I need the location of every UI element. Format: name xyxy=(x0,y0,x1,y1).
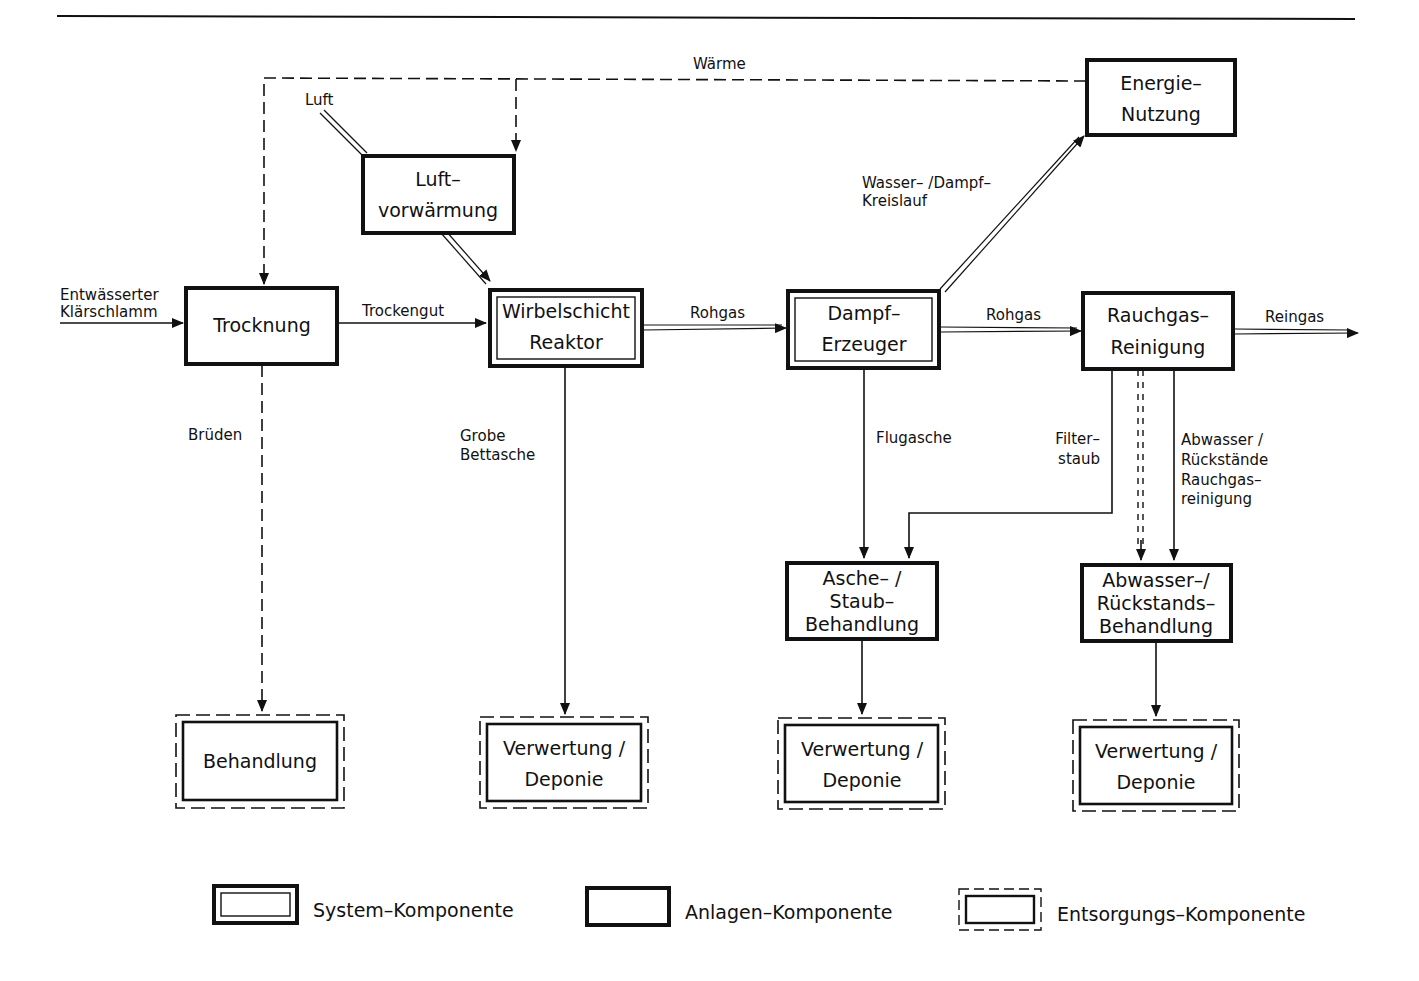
label-rohgas-2: Rohgas xyxy=(986,306,1041,324)
box-label: Staub– xyxy=(830,590,895,612)
box-label: Rauchgas– xyxy=(1107,304,1209,326)
label-reingas: Reingas xyxy=(1265,308,1324,326)
box-label: Behandlung xyxy=(203,750,317,772)
label-input-1: Entwässerter xyxy=(60,286,159,304)
top-rule xyxy=(57,16,1355,19)
legend-item-system: System–Komponente xyxy=(214,886,514,923)
legend-label: System–Komponente xyxy=(313,899,514,921)
label-abwasser-4: reinigung xyxy=(1181,490,1252,508)
label-abwasser-1: Abwasser / xyxy=(1181,431,1264,449)
label-bettasche-2: Bettasche xyxy=(460,446,535,464)
box-label: Trocknung xyxy=(212,314,310,336)
box-label: Nutzung xyxy=(1121,103,1201,125)
legend-label: Anlagen–Komponente xyxy=(685,901,893,923)
label-abwasser-3: Rauchgas– xyxy=(1181,471,1262,489)
box-energienutzung: Energie– Nutzung xyxy=(1087,60,1235,135)
label-trockengut: Trockengut xyxy=(361,302,444,320)
box-behandlung: Behandlung xyxy=(176,715,344,808)
box-label: Rückstands– xyxy=(1097,592,1215,614)
label-luft: Luft xyxy=(305,91,334,109)
box-label: Reaktor xyxy=(529,331,603,353)
box-abwasser-rueckstand: Abwasser–/ Rückstands– Behandlung xyxy=(1082,565,1231,641)
legend-item-entsorgung: Entsorgungs–Komponente xyxy=(959,889,1305,930)
box-label: Luft– xyxy=(415,168,461,190)
box-verwertung-3: Verwertung / Deponie xyxy=(1073,720,1239,811)
box-label: Verwertung / xyxy=(801,738,924,760)
process-flow-diagram: Luft– vorwärmung Trocknung Energie– Nutz… xyxy=(0,0,1419,981)
wasser-dampf-line xyxy=(940,137,1079,289)
box-label: Deponie xyxy=(524,768,603,790)
label-waerme: Wärme xyxy=(693,55,746,73)
box-label: Asche– / xyxy=(822,567,902,589)
box-label: Deponie xyxy=(1116,771,1195,793)
box-label: vorwärmung xyxy=(378,199,498,221)
box-label: Energie– xyxy=(1120,72,1202,94)
box-dampferzeuger: Dampf– Erzeuger xyxy=(788,291,939,368)
box-trocknung: Trocknung xyxy=(186,288,337,364)
box-asche-staub: Asche– / Staub– Behandlung xyxy=(787,563,937,639)
box-wirbelschicht-reaktor: Wirbelschicht Reaktor xyxy=(490,290,642,366)
label-filterstaub-2: staub xyxy=(1058,450,1100,468)
legend-label: Entsorgungs–Komponente xyxy=(1057,903,1305,925)
box-label: Verwertung / xyxy=(1095,740,1218,762)
label-wasser-dampf-1: Wasser– /Dampf– xyxy=(862,174,991,192)
legend-item-anlagen: Anlagen–Komponente xyxy=(587,888,893,925)
box-label: Deponie xyxy=(822,769,901,791)
label-brueden: Brüden xyxy=(188,426,242,444)
label-wasser-dampf-2: Kreislauf xyxy=(862,192,928,210)
box-label: Wirbelschicht xyxy=(502,300,630,322)
label-bettasche-1: Grobe xyxy=(460,427,505,445)
box-rauchgasreinigung: Rauchgas– Reinigung xyxy=(1083,293,1233,369)
box-luftvorwaermung: Luft– vorwärmung xyxy=(363,156,514,233)
label-input-2: Klärschlamm xyxy=(60,303,158,321)
luft-inlet-line xyxy=(320,113,363,156)
reingas-line xyxy=(1234,329,1350,330)
box-label: Behandlung xyxy=(1099,615,1213,637)
box-label: Erzeuger xyxy=(821,333,906,355)
legend: System–Komponente Anlagen–Komponente Ent… xyxy=(214,886,1305,930)
box-label: Reinigung xyxy=(1111,336,1206,358)
rohgas2-line xyxy=(940,327,1077,328)
label-rohgas-1: Rohgas xyxy=(690,304,745,322)
box-verwertung-1: Verwertung / Deponie xyxy=(480,717,648,808)
label-filterstaub-1: Filter– xyxy=(1055,430,1100,448)
box-label: Dampf– xyxy=(827,302,900,324)
label-abwasser-2: Rückstände xyxy=(1181,451,1268,469)
box-label: Behandlung xyxy=(805,613,919,635)
luft-to-reaktor-line xyxy=(441,233,486,284)
box-label: Verwertung / xyxy=(503,737,626,759)
box-label: Abwasser–/ xyxy=(1102,569,1210,591)
label-flugasche: Flugasche xyxy=(876,429,952,447)
box-verwertung-2: Verwertung / Deponie xyxy=(778,718,945,809)
